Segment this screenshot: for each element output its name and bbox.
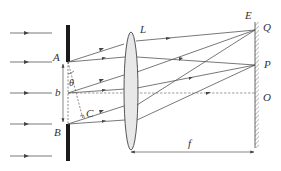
- slit-width-dimension: [63, 62, 68, 124]
- label-theta: θ: [69, 78, 74, 88]
- lens: [124, 32, 138, 150]
- label-Q: Q: [263, 22, 271, 33]
- label-P: P: [264, 59, 271, 70]
- incident-rays: [10, 31, 52, 158]
- label-L: L: [140, 24, 146, 35]
- diffracted-rays-slit: [68, 44, 125, 124]
- label-O: O: [263, 92, 271, 103]
- label-A: A: [53, 52, 60, 63]
- label-b: b: [55, 87, 61, 98]
- label-f: f: [188, 138, 191, 149]
- diffracted-rays-focused: [136, 30, 255, 120]
- label-C: C: [86, 108, 93, 119]
- label-E: E: [245, 10, 252, 21]
- screen: [255, 22, 259, 148]
- label-B: B: [54, 127, 61, 138]
